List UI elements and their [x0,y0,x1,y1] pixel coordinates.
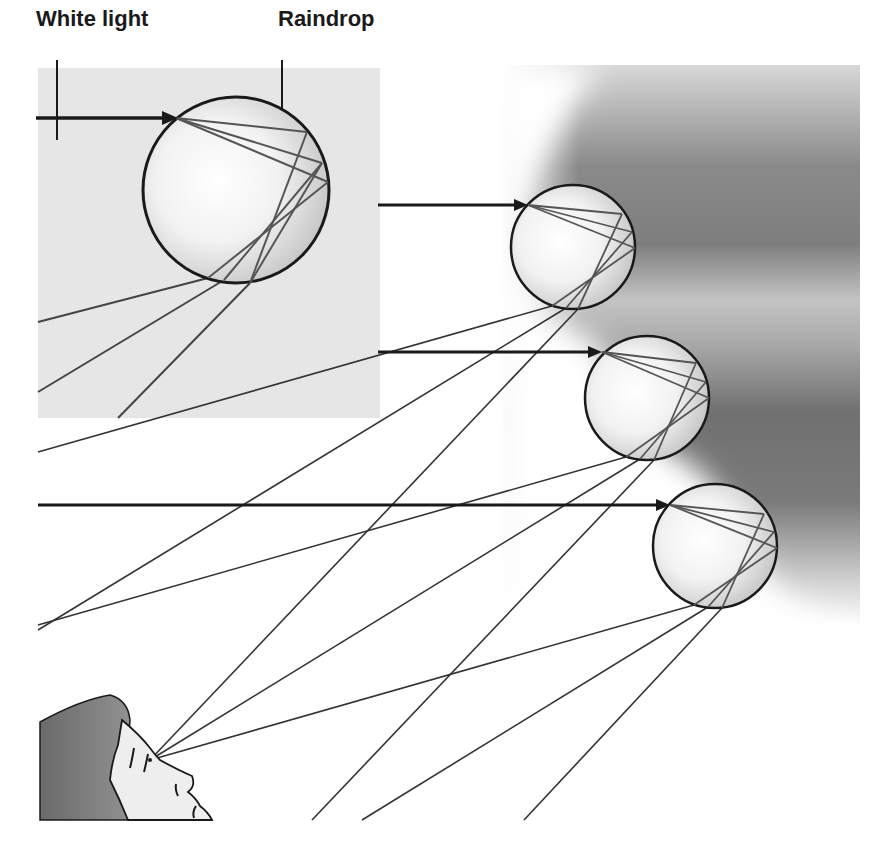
observer-eye [148,758,152,762]
observer-head [40,695,212,820]
rainbow-diagram [0,0,886,845]
